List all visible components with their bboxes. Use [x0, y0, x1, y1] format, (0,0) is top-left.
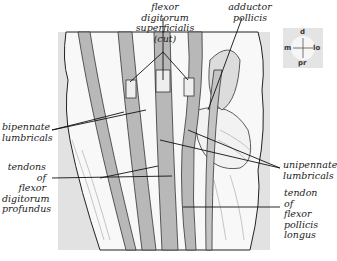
label-line: adductor [228, 2, 272, 13]
label-line: tendon of [284, 188, 328, 209]
fds-stump-3 [184, 78, 194, 96]
orientation-compass: d m lo pr [283, 28, 323, 68]
label-line: bipennate [2, 122, 46, 133]
label-line: flexor digitorum [128, 2, 202, 23]
label-line: lumbricals [283, 171, 337, 182]
label-adductor-pollicis: adductor pollicis [228, 2, 272, 23]
label-line: pollicis [228, 13, 272, 24]
label-line: tendons of [2, 162, 46, 183]
fds-stump-1 [126, 80, 136, 98]
label-line: flexor [2, 183, 46, 194]
label-line: superficialis (cut) [128, 23, 202, 44]
label-line: profundus [2, 204, 46, 215]
compass-medial: m [284, 44, 291, 52]
label-line: flexor [284, 209, 328, 220]
compass-distal: d [300, 28, 305, 36]
label-unipennate-lumbricals: unipennate lumbricals [283, 160, 337, 181]
compass-lateral: lo [313, 44, 320, 52]
label-line: unipennate [283, 160, 337, 171]
compass-proximal: pr [298, 59, 306, 67]
label-line: longus [284, 230, 328, 241]
label-tendon-fpl: tendon of flexor pollicis longus [284, 188, 328, 241]
label-bipennate-lumbricals: bipennate lumbricals [2, 122, 46, 143]
label-tendons-fdp: tendons of flexor digitorum profundus [2, 162, 46, 215]
label-line: lumbricals [2, 133, 46, 144]
label-flexor-digitorum-superficialis: flexor digitorum superficialis (cut) [128, 2, 202, 44]
